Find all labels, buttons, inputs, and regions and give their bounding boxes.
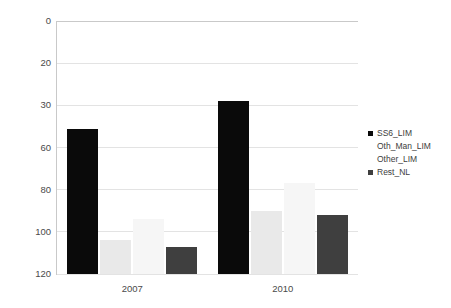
legend-item-label: SS6_LIM bbox=[377, 129, 412, 138]
y-axis-tick-label: 20 bbox=[40, 58, 51, 68]
legend-item[interactable]: Oth_Man_LIM bbox=[368, 140, 448, 152]
legend-item-label: Rest_NL bbox=[377, 168, 410, 177]
chart-legend: SS6_LIMOth_Man_LIMOther_LIMRest_NL bbox=[368, 127, 448, 179]
y-axis-tick-label: 80 bbox=[40, 185, 51, 195]
bar-oth_man_lim-2010 bbox=[251, 211, 282, 274]
bar-other_lim-2010 bbox=[284, 183, 315, 274]
legend-item-label: Oth_Man_LIM bbox=[377, 142, 431, 151]
plot-area: 020306080100120 20072010 bbox=[56, 21, 358, 275]
bar-rest_nl-2010 bbox=[317, 215, 348, 274]
bar-ss6_lim-2010 bbox=[218, 101, 249, 274]
y-axis-tick-label: 30 bbox=[40, 101, 51, 111]
bar-ss6_lim-2007 bbox=[67, 129, 98, 274]
bar-other_lim-2007 bbox=[133, 219, 164, 274]
bar-chart: 020306080100120 20072010 SS6_LIMOth_Man_… bbox=[0, 0, 451, 308]
y-axis-tick-label: 0 bbox=[46, 16, 51, 26]
legend-swatch-icon bbox=[368, 131, 373, 136]
legend-item[interactable]: SS6_LIM bbox=[368, 127, 448, 139]
bar-rest_nl-2007 bbox=[166, 247, 197, 274]
legend-item[interactable]: Rest_NL bbox=[368, 166, 448, 178]
legend-item[interactable]: Other_LIM bbox=[368, 153, 448, 165]
x-axis-tick-label: 2010 bbox=[272, 284, 293, 294]
bars-layer bbox=[57, 21, 358, 274]
legend-swatch-icon bbox=[368, 170, 373, 175]
y-axis-tick-label: 60 bbox=[40, 143, 51, 153]
y-axis-tick-label: 100 bbox=[35, 227, 51, 237]
legend-item-label: Other_LIM bbox=[377, 155, 417, 164]
x-axis-tick-label: 2007 bbox=[122, 284, 143, 294]
bar-oth_man_lim-2007 bbox=[100, 240, 131, 274]
y-axis-tick-label: 120 bbox=[35, 269, 51, 279]
